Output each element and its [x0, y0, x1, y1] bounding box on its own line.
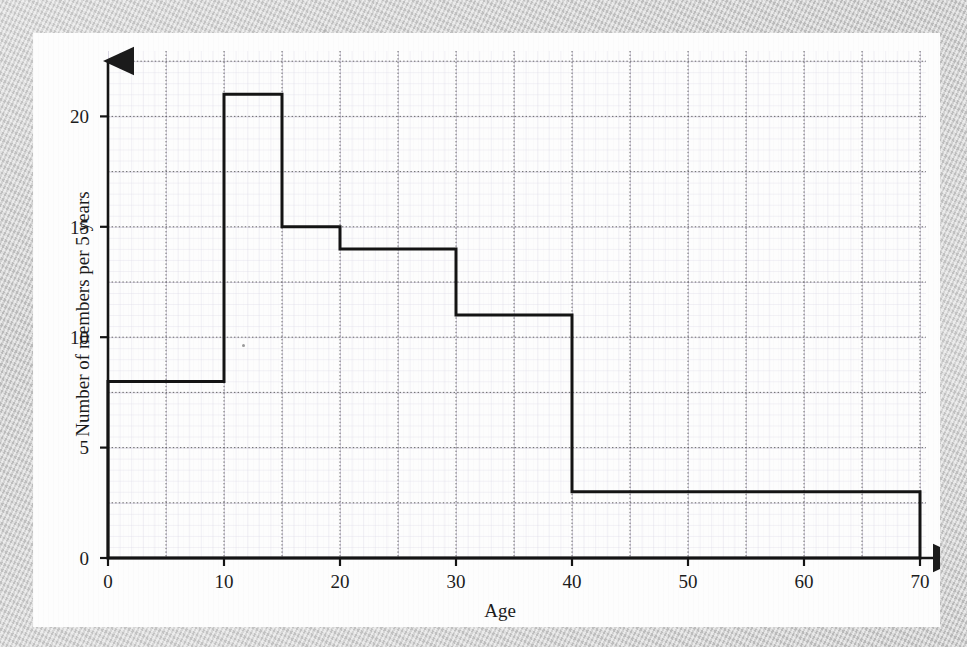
x-tick-label: 30	[447, 571, 466, 592]
histogram-svg: 0 5 10 15 20 0 10 20 30 40 50 60 70 Age	[33, 33, 940, 627]
x-tick-labels: 0 10 20 30 40 50 60 70	[103, 571, 929, 592]
y-axis-title-wrap: Number of members per 5 years	[33, 33, 73, 627]
x-tick-label: 10	[215, 571, 234, 592]
x-tick-label: 0	[103, 571, 113, 592]
y-tick-label: 0	[80, 548, 90, 569]
scan-speck	[324, 29, 327, 32]
x-tick-label: 40	[563, 571, 582, 592]
x-tick-label: 20	[331, 571, 350, 592]
x-tick-label: 70	[911, 571, 930, 592]
histogram-figure: 0 5 10 15 20 0 10 20 30 40 50 60 70 Age	[33, 33, 940, 627]
paper-page: 0 5 10 15 20 0 10 20 30 40 50 60 70 Age …	[33, 33, 940, 627]
x-tick-label: 50	[679, 571, 698, 592]
x-tick-label: 60	[795, 571, 814, 592]
grid-layer	[108, 51, 926, 558]
x-axis-title: Age	[484, 600, 516, 621]
y-axis-title: Number of members per 5 years	[72, 154, 94, 474]
scan-speck	[242, 344, 245, 347]
